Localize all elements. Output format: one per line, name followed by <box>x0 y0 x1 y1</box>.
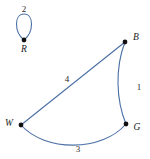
node-r[interactable] <box>22 38 27 43</box>
node-w[interactable] <box>19 123 24 128</box>
node-g[interactable] <box>124 122 129 127</box>
edge-group <box>17 14 127 145</box>
edge-weight-w-b: 4 <box>65 75 70 84</box>
edge-weight-b-g: 1 <box>137 83 142 92</box>
edge-self-loop-r[interactable] <box>17 14 32 40</box>
node-label-w: W <box>5 119 13 129</box>
edge-b-g[interactable] <box>118 42 126 124</box>
edge-w-b[interactable] <box>21 42 125 125</box>
graph-diagram: R B W G 2 4 1 3 <box>0 0 150 159</box>
edge-weight-self-loop-r: 2 <box>22 5 27 14</box>
edge-w-g[interactable] <box>21 124 126 145</box>
node-b[interactable] <box>123 40 128 45</box>
node-label-g: G <box>134 123 141 133</box>
edge-weight-w-g: 3 <box>76 145 81 154</box>
node-label-r: R <box>21 45 27 55</box>
node-label-b: B <box>133 33 139 43</box>
graph-canvas <box>0 0 150 159</box>
